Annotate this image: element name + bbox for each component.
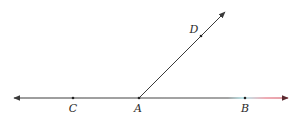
point-c [72,97,75,100]
point-b [244,97,247,100]
label-c: C [69,102,78,115]
point-a [138,97,141,100]
geometry-diagram: C A B D [0,0,303,118]
label-d: D [189,23,199,36]
label-b: B [240,102,249,115]
label-a: A [133,102,142,115]
point-d [200,35,203,38]
ray-ad [139,12,225,98]
